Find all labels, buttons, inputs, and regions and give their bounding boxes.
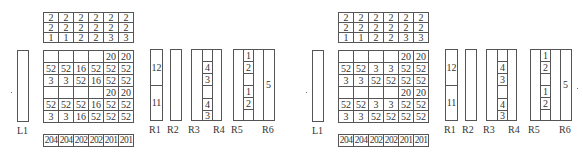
grid-row: 3352165252 <box>44 75 134 87</box>
panel-right: L1 222222222222112233 202052523352523352… <box>295 0 583 163</box>
r5-value: 2 <box>244 63 253 73</box>
r3r4-seg-divider <box>203 85 212 86</box>
grid-cell: 52 <box>119 63 134 75</box>
main-grid: 2020525233525233525252522020525233525233… <box>338 50 429 123</box>
grid-row: 112233 <box>44 33 134 43</box>
r5-seg-divider <box>244 109 253 110</box>
grid-cell: 2 <box>59 13 74 23</box>
top-grid-body: 222222222222112233 <box>339 13 429 43</box>
grid-cell: 2 <box>119 13 134 23</box>
r5-inner-column: 1 2 1 2 <box>540 49 551 121</box>
label-r5: R5 <box>231 125 243 135</box>
grid-cell: 52 <box>89 111 104 123</box>
grid-row: 222222 <box>44 23 134 33</box>
grid-cell: 20 <box>414 87 429 99</box>
grid-cell: 52 <box>384 111 399 123</box>
grid-cell <box>74 51 89 63</box>
grid-cell: 52 <box>104 63 119 75</box>
grid-row: 3352525252 <box>339 111 429 123</box>
grid-cell <box>44 87 59 99</box>
grid-cell: 3 <box>104 33 119 43</box>
label-r2: R2 <box>167 125 179 135</box>
r5-inner-column: 1 2 1 2 <box>243 49 254 121</box>
grid-cell: 1 <box>339 33 354 43</box>
grid-cell: 201 <box>119 135 134 147</box>
grid-cell: 52 <box>339 99 354 111</box>
r5-value: 1 <box>541 87 550 97</box>
r3r4-value: 3 <box>203 111 212 121</box>
grid-cell: 52 <box>44 99 59 111</box>
grid-cell: 2 <box>384 33 399 43</box>
grid-row: 222222 <box>339 23 429 33</box>
grid-cell: 2 <box>414 23 429 33</box>
grid-cell: 52 <box>414 111 429 123</box>
grid-cell <box>339 51 354 63</box>
bar-r5-r6: 1 2 1 2 5 <box>530 49 572 121</box>
grid-cell: 52 <box>59 99 74 111</box>
r5-value: 2 <box>541 63 550 73</box>
grid-cell: 20 <box>104 87 119 99</box>
label-r3: R3 <box>188 125 200 135</box>
grid-cell: 52 <box>59 63 74 75</box>
grid-cell: 3 <box>339 75 354 87</box>
grid-cell: 3 <box>354 111 369 123</box>
grid-cell: 2 <box>74 13 89 23</box>
r6-value: 5 <box>263 80 274 90</box>
main-grid-body: 2020525216525252335216525220205252521652… <box>44 51 134 123</box>
grid-cell: 20 <box>104 51 119 63</box>
r3r4-value: 4 <box>498 63 507 73</box>
grid-cell <box>89 87 104 99</box>
grid-row: 2020 <box>339 51 429 63</box>
grid-row: 5252335252 <box>339 63 429 75</box>
r3r4-value: 4 <box>203 63 212 73</box>
label-r1: R1 <box>149 125 161 135</box>
grid-cell: 2 <box>74 33 89 43</box>
grid-cell: 2 <box>354 23 369 33</box>
r1-top-value: 12 <box>151 63 162 73</box>
grid-cell: 52 <box>369 75 384 87</box>
grid-cell: 3 <box>119 33 134 43</box>
grid-cell: 2 <box>89 23 104 33</box>
grid-cell <box>74 87 89 99</box>
grid-cell: 3 <box>384 99 399 111</box>
grid-cell: 52 <box>414 75 429 87</box>
grid-cell: 3 <box>369 99 384 111</box>
grid-cell: 52 <box>104 99 119 111</box>
grid-cell: 16 <box>89 99 104 111</box>
grid-cell: 2 <box>414 13 429 23</box>
bottom-grid: 204204202202201201 <box>43 134 134 147</box>
grid-cell: 2 <box>369 23 384 33</box>
r1-bottom-value: 11 <box>446 98 457 108</box>
grid-cell <box>354 51 369 63</box>
bar-r5-r6: 1 2 1 2 5 <box>233 49 275 121</box>
grid-cell: 52 <box>104 75 119 87</box>
bar-r3-r4: 4 3 4 3 <box>486 49 517 121</box>
grid-row: 525216525252 <box>44 63 134 75</box>
label-r3: R3 <box>483 125 495 135</box>
grid-cell: 2 <box>89 13 104 23</box>
grid-row: 222222 <box>44 13 134 23</box>
grid-cell: 202 <box>369 135 384 147</box>
grid-cell: 20 <box>414 51 429 63</box>
grid-cell: 20 <box>399 51 414 63</box>
grid-cell: 1 <box>44 33 59 43</box>
label-l1: L1 <box>17 126 28 136</box>
bar-r2 <box>170 49 182 121</box>
grid-cell <box>44 51 59 63</box>
grid-cell: 2 <box>399 23 414 33</box>
marker-dot <box>577 88 578 89</box>
grid-cell: 52 <box>414 63 429 75</box>
grid-cell: 2 <box>399 13 414 23</box>
r1-divider <box>446 85 457 86</box>
r5-value: 1 <box>541 51 550 61</box>
grid-cell: 3 <box>414 33 429 43</box>
grid-row: 2020 <box>44 87 134 99</box>
grid-cell: 204 <box>354 135 369 147</box>
bar-r1: 12 11 <box>445 49 458 121</box>
grid-cell: 3 <box>354 75 369 87</box>
grid-cell <box>354 87 369 99</box>
grid-cell <box>384 87 399 99</box>
grid-cell: 3 <box>44 111 59 123</box>
grid-cell: 52 <box>354 63 369 75</box>
label-r4: R4 <box>508 125 520 135</box>
